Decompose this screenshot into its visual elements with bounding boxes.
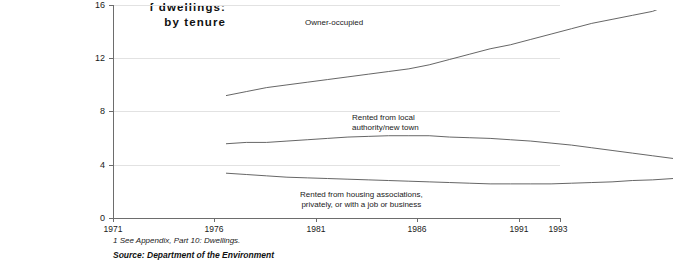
x-tick-label-1976: 1976 xyxy=(194,224,234,234)
y-tick-label-4: 4 xyxy=(77,161,105,170)
series-line-other-rented xyxy=(226,173,673,184)
x-tick-mark-1991 xyxy=(519,218,520,222)
series-lines xyxy=(226,10,673,224)
x-axis xyxy=(113,218,561,219)
series-line-owner-occupied xyxy=(226,10,673,96)
series-line-local-authority xyxy=(226,136,673,159)
x-tick-label-1971: 1971 xyxy=(93,224,133,234)
y-tick-mark-8 xyxy=(109,111,113,112)
y-tick-label-0: 0 xyxy=(77,214,105,223)
x-tick-mark-1971 xyxy=(113,218,114,222)
x-tick-mark-1993 xyxy=(560,218,561,222)
x-tick-label-1991: 1991 xyxy=(499,224,539,234)
x-tick-label-1993: 1993 xyxy=(538,224,578,234)
x-tick-label-1981: 1981 xyxy=(296,224,336,234)
y-tick-labels: 16 12 8 4 0 xyxy=(77,5,105,219)
y-tick-label-12: 12 xyxy=(77,54,105,63)
y-tick-label-8: 8 xyxy=(77,107,105,116)
x-tick-mark-1976 xyxy=(214,218,215,222)
y-tick-group xyxy=(113,5,114,219)
x-tick-mark-1986 xyxy=(417,218,418,222)
y-tick-label-16: 16 xyxy=(77,1,105,10)
y-tick-mark-16 xyxy=(109,5,113,6)
gridline-16 xyxy=(113,5,560,6)
series-label-local-authority: Rented from local authority/new town xyxy=(352,113,419,132)
plot-area xyxy=(113,5,560,218)
y-tick-mark-12 xyxy=(109,58,113,59)
series-label-other-rented: Rented from housing associations, privat… xyxy=(300,190,423,209)
x-tick-mark-1981 xyxy=(316,218,317,222)
y-tick-mark-4 xyxy=(109,165,113,166)
series-label-owner-occupied: Owner-occupied xyxy=(305,18,363,28)
footnote-source: Source: Department of the Environment xyxy=(113,250,274,260)
x-tick-label-1986: 1986 xyxy=(397,224,437,234)
footnote-appendix: 1 See Appendix, Part 10: Dwellings. xyxy=(113,236,240,246)
